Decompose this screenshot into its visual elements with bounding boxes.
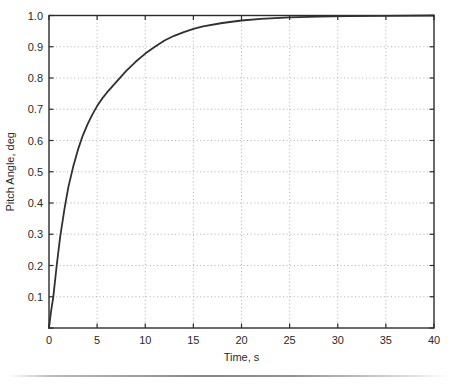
y-tick-label: 0.9 bbox=[28, 41, 43, 53]
pitch-angle-response-figure: 0510152025303540 0.10.20.30.40.50.60.70.… bbox=[0, 0, 456, 390]
x-tick-label: 0 bbox=[46, 334, 52, 346]
x-tick-label: 15 bbox=[187, 334, 199, 346]
x-tick-label: 10 bbox=[139, 334, 151, 346]
x-tick-label: 25 bbox=[284, 334, 296, 346]
grid-lines bbox=[49, 16, 434, 329]
plot-canvas: 0510152025303540 0.10.20.30.40.50.60.70.… bbox=[0, 0, 456, 372]
x-tick-label: 30 bbox=[332, 334, 344, 346]
x-tick-label: 40 bbox=[428, 334, 440, 346]
y-tick-label: 0.3 bbox=[28, 228, 43, 240]
x-tick-label: 5 bbox=[94, 334, 100, 346]
y-tick-label: 0.4 bbox=[28, 197, 43, 209]
y-tick-label: 0.1 bbox=[28, 291, 43, 303]
x-tick-label: 20 bbox=[235, 334, 247, 346]
y-tick-label: 0.7 bbox=[28, 103, 43, 115]
y-tick-label: 0.8 bbox=[28, 72, 43, 84]
y-axis-label: Pitch Angle, deg bbox=[4, 132, 16, 212]
x-axis-label: Time, s bbox=[224, 351, 260, 363]
x-tick-labels: 0510152025303540 bbox=[46, 334, 440, 346]
y-tick-label: 1.0 bbox=[28, 10, 43, 22]
y-tick-label: 0.6 bbox=[28, 135, 43, 147]
page-divider-line bbox=[8, 375, 448, 377]
y-tick-label: 0.5 bbox=[28, 166, 43, 178]
y-tick-label: 0.2 bbox=[28, 260, 43, 272]
y-tick-labels: 0.10.20.30.40.50.60.70.80.91.0 bbox=[28, 10, 43, 303]
x-tick-label: 35 bbox=[380, 334, 392, 346]
